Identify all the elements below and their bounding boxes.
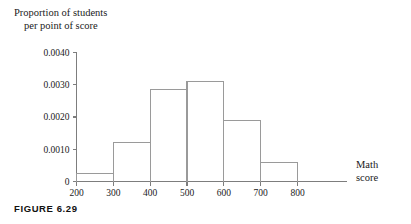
figure-container: Proportion of students per point of scor… bbox=[0, 0, 411, 224]
figure-caption: FIGURE 6.29 bbox=[14, 203, 78, 214]
y-tick-label: 0.0040 bbox=[43, 48, 69, 58]
x-tick-label: 600 bbox=[217, 188, 232, 198]
histogram-bar bbox=[224, 120, 261, 181]
histogram-bar bbox=[77, 173, 114, 181]
x-axis-title-line2: score bbox=[356, 171, 378, 184]
x-tick-label: 500 bbox=[180, 188, 195, 198]
histogram-bar bbox=[261, 162, 298, 181]
y-tick-label: 0 bbox=[65, 177, 70, 187]
histogram-bar bbox=[150, 90, 187, 182]
x-tick-label: 800 bbox=[290, 188, 305, 198]
y-tick-label: 0.0020 bbox=[43, 112, 69, 122]
x-tick-label: 700 bbox=[254, 188, 269, 198]
x-tick-label: 400 bbox=[143, 188, 158, 198]
histogram-plot: 00.00100.00200.00300.0040200300400500600… bbox=[0, 0, 411, 224]
x-tick-label: 200 bbox=[69, 188, 84, 198]
x-axis-title: Math score bbox=[356, 158, 378, 184]
histogram-bar bbox=[113, 143, 150, 182]
x-tick-label: 300 bbox=[106, 188, 121, 198]
x-axis-title-line1: Math bbox=[356, 158, 378, 171]
histogram-bar bbox=[187, 82, 224, 182]
y-tick-label: 0.0010 bbox=[43, 145, 69, 155]
y-tick-label: 0.0030 bbox=[43, 80, 69, 90]
